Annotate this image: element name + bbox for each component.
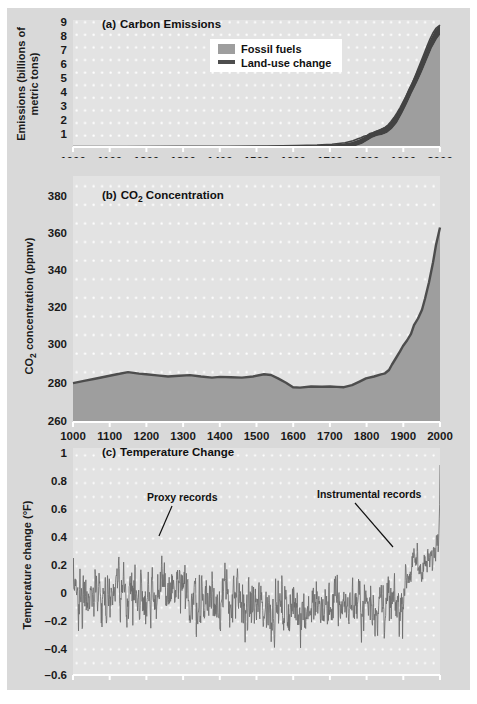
panel-c-xtick-9: 1900 <box>391 684 417 686</box>
panel-c-xtick-4: 1400 <box>207 684 233 686</box>
panel-a-ytick-8: 1 <box>61 128 68 140</box>
panel-a-ytick-4: 5 <box>61 72 68 84</box>
panel-c-ytick-7: –0.4 <box>45 643 68 655</box>
panel-a-xtick-3: 1300 <box>170 155 196 158</box>
panel-c-gridlines <box>73 448 440 675</box>
annotation-instrumental-records: Instrumental records <box>317 488 422 500</box>
panel-a-xtick-7: 1700 <box>317 155 343 158</box>
panel-c-xtick-10: 2000 <box>427 684 453 686</box>
annotation-proxy-records: Proxy records <box>147 491 218 503</box>
panel-carbon-emissions: 9 8 7 6 5 4 3 2 1 1000 1100 1200 1300 14… <box>7 8 470 158</box>
panel-b-ylabel: CO2 concentration (ppmv) <box>23 237 38 374</box>
panel-c-ytick-1: 0.8 <box>51 475 68 487</box>
panel-a-xtick-6: 1600 <box>280 155 306 158</box>
panel-c-ylabel: Temperature change (°F) <box>21 500 33 629</box>
legend-label-landuse: Land-use change <box>241 57 331 69</box>
panel-b-ytick-6: 260 <box>48 415 67 427</box>
panel-b-ytick-1: 360 <box>48 227 67 239</box>
panel-a-xtick-5: 1500 <box>244 155 270 158</box>
panel-c-title: (c)Temperature Change <box>102 446 234 458</box>
panel-a-ytick-5: 4 <box>61 86 68 98</box>
panel-a-xtick-4: 1400 <box>207 155 233 158</box>
panel-a-ytick-6: 3 <box>61 100 67 112</box>
panel-co2-concentration: 380 360 340 320 300 280 260 1000 1100 12… <box>7 166 470 456</box>
figure-container: 9 8 7 6 5 4 3 2 1 1000 1100 1200 1300 14… <box>7 8 470 690</box>
panel-a-xtick-0: 1000 <box>60 155 86 158</box>
panel-a-ytick-3: 6 <box>61 58 67 70</box>
panel-a-ytick-0: 9 <box>61 16 67 28</box>
panel-b-ytick-5: 280 <box>48 377 67 389</box>
legend-line-landuse-icon <box>218 60 235 64</box>
panel-c-xtick-2: 1200 <box>134 684 160 686</box>
panel-c-ytick-0: 1 <box>61 447 68 459</box>
panel-b-ytick-3: 320 <box>48 301 67 313</box>
panel-a-ytick-2: 7 <box>61 44 67 56</box>
panel-c-ytick-3: 0.4 <box>51 531 68 543</box>
panel-c-ytick-2: 0.6 <box>51 503 67 515</box>
panel-a-ylabel-line2: metric tons) <box>28 52 40 115</box>
panel-c-xtick-7: 1700 <box>317 684 343 686</box>
panel-c-xtick-0: 1000 <box>60 684 86 686</box>
panel-a-xtick-9: 1900 <box>391 155 417 158</box>
panel-c-ytick-4: 0.2 <box>51 559 67 571</box>
panel-c-xtick-5: 1500 <box>244 684 270 686</box>
panel-a-ytick-7: 2 <box>61 114 67 126</box>
panel-c-ytick-5: 0 <box>61 587 67 599</box>
panel-a-xtick-2: 1200 <box>134 155 160 158</box>
panel-a-ytick-1: 8 <box>61 30 68 42</box>
panel-c-xtick-6: 1600 <box>280 684 306 686</box>
panel-c-ytick-8: –0.6 <box>45 669 67 681</box>
panel-a-xtick-8: 1800 <box>354 155 380 158</box>
legend-label-fossil-fuels: Fossil fuels <box>241 43 302 55</box>
legend-swatch-fossil-fuels-icon <box>218 44 235 54</box>
panel-a-title: (a)Carbon Emissions <box>102 18 221 30</box>
panel-a-ylabel-line1: Emissions (billions of <box>15 27 27 141</box>
panel-b-ytick-4: 300 <box>48 338 67 350</box>
panel-a-xtick-1: 1100 <box>97 155 122 158</box>
panel-c-xtick-8: 1800 <box>354 684 380 686</box>
panel-c-xtick-1: 1100 <box>97 684 122 686</box>
panel-b-ytick-2: 340 <box>48 264 67 276</box>
panel-b-ytick-0: 380 <box>48 190 67 202</box>
panel-c-xtick-3: 1300 <box>170 684 196 686</box>
panel-temperature-change: Proxy records Instrumental records 1 0.8… <box>7 440 470 686</box>
panel-c-ytick-6: –0.2 <box>45 615 67 627</box>
panel-a-xtick-10: 2000 <box>427 155 453 158</box>
